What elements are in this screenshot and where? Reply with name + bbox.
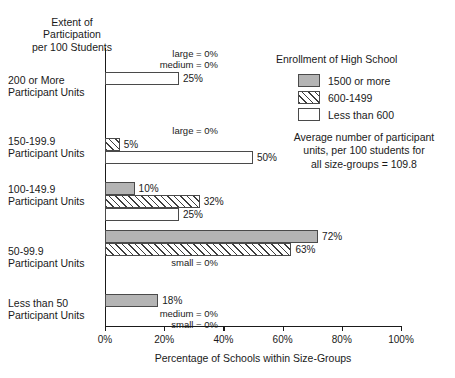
legend-label: Less than 600 (328, 109, 394, 121)
legend: Enrollment of High School 1500 or more60… (276, 53, 452, 125)
bar-large (105, 182, 135, 195)
category-label: 50-99.9 Participant Units (8, 245, 100, 270)
legend-title: Enrollment of High School (276, 53, 452, 65)
x-tick-label: 60% (273, 334, 293, 345)
bar-value-label: 18% (162, 295, 182, 306)
legend-item-medium: 600-1499 (276, 91, 452, 104)
legend-swatch-medium (298, 91, 320, 104)
x-tick-mark (223, 326, 224, 331)
average-note: Average number of participant units, per… (276, 131, 452, 171)
bar-large (105, 294, 158, 307)
legend-item-small: Less than 600 (276, 108, 452, 121)
bar-small (105, 208, 179, 221)
participation-bar-chart: Extent of Participation per 100 Students… (0, 0, 455, 378)
category-label: 100-149.9 Participant Units (8, 183, 100, 208)
zero-value-note: large = 0% (110, 48, 218, 59)
zero-value-note: large = 0% (110, 125, 218, 136)
x-tick-mark (401, 326, 402, 331)
bar-value-label: 32% (204, 196, 224, 207)
x-tick-label: 100% (388, 334, 414, 345)
legend-label: 600-1499 (328, 92, 372, 104)
legend-items: 1500 or more600-1499Less than 600 (276, 74, 452, 121)
bar-medium (105, 195, 200, 208)
bar-value-label: 25% (183, 73, 203, 84)
x-tick-label: 40% (213, 334, 233, 345)
legend-label: 1500 or more (328, 75, 390, 87)
x-tick-mark (105, 326, 106, 331)
x-tick-mark (283, 326, 284, 331)
x-tick-label: 0% (98, 334, 112, 345)
bar-value-label: 63% (295, 244, 315, 255)
x-tick-mark (342, 326, 343, 331)
legend-swatch-large (298, 74, 320, 87)
bar-medium (105, 243, 291, 256)
bar-value-label: 50% (257, 152, 277, 163)
bar-large (105, 230, 318, 243)
bar-small (105, 151, 253, 164)
zero-value-note: medium = 0% (110, 59, 218, 70)
zero-value-note: small = 0% (110, 319, 218, 330)
zero-value-note: small = 0% (110, 257, 218, 268)
category-label: Less than 50 Participant Units (8, 297, 100, 322)
x-tick-label: 20% (154, 334, 174, 345)
legend-item-large: 1500 or more (276, 74, 452, 87)
x-tick-label: 80% (332, 334, 352, 345)
zero-value-note: medium = 0% (110, 308, 218, 319)
bar-small (105, 72, 179, 85)
bar-medium (105, 138, 120, 151)
category-label: 150-199.9 Participant Units (8, 135, 100, 160)
bar-value-label: 10% (139, 183, 159, 194)
bar-value-label: 72% (322, 231, 342, 242)
legend-swatch-small (298, 108, 320, 121)
bar-value-label: 5% (124, 139, 138, 150)
x-axis-label: Percentage of Schools within Size-Groups (105, 352, 401, 364)
bar-value-label: 25% (183, 209, 203, 220)
category-label: 200 or More Participant Units (8, 74, 100, 99)
